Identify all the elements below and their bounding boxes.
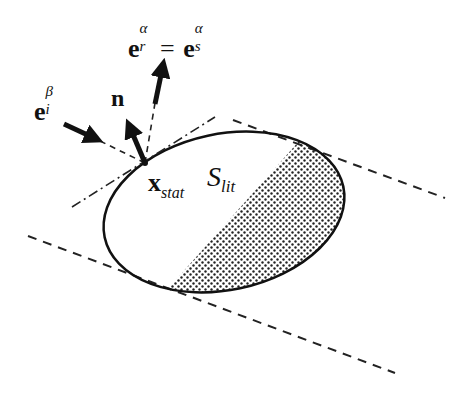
reflected-scripts: αr <box>140 33 152 57</box>
incident-sub: i <box>46 102 50 117</box>
incident-scripts: βi <box>46 96 58 120</box>
equals-sign: = <box>160 34 175 63</box>
lit-surface-label: Slit <box>207 163 235 191</box>
scattered-sub: s <box>195 39 201 54</box>
incident-arrow <box>64 124 92 137</box>
stationary-sub: stat <box>161 184 184 201</box>
incident-base: e <box>34 97 46 126</box>
incident-direction-label: eβi <box>34 96 58 125</box>
shadow-region <box>158 140 360 300</box>
reflected-sup: α <box>140 21 148 36</box>
lit-surface-base: S <box>207 161 221 192</box>
stationary-point-label: xstat <box>148 170 184 196</box>
scattered-sup: α <box>195 21 203 36</box>
scattering-diagram <box>0 0 465 395</box>
reflected-base: e <box>128 34 140 63</box>
stationary-point-marker <box>142 160 148 166</box>
scattered-base: e <box>183 34 195 63</box>
normal-label: n <box>111 86 124 110</box>
reflected-direction-label: eαr = eαs <box>128 33 207 62</box>
incident-sup: β <box>46 84 53 99</box>
reflected-ray-dashed <box>145 103 155 163</box>
stationary-base: x <box>148 168 161 197</box>
reflected-arrow <box>155 70 162 104</box>
scattered-scripts: αs <box>195 33 207 57</box>
lit-surface-sub: lit <box>221 177 235 196</box>
reflected-sub: r <box>140 39 146 54</box>
